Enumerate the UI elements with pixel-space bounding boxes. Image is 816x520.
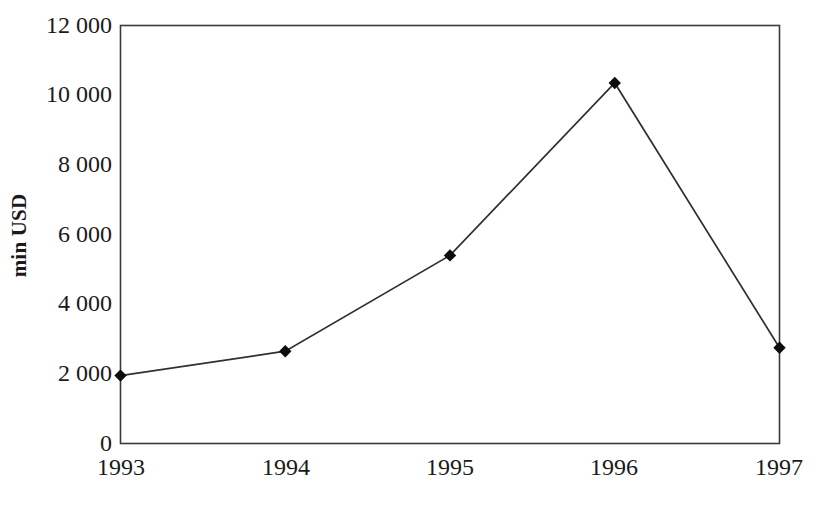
data-point-marker [773,342,785,354]
chart-page: min USD 12 000 10 000 8 000 6 000 4 000 … [0,0,816,520]
series-markers [114,77,785,382]
data-point-marker [114,369,126,381]
plot-frame [121,26,780,444]
plot-area [0,0,816,520]
data-point-marker [279,345,291,357]
series-line [121,83,780,376]
